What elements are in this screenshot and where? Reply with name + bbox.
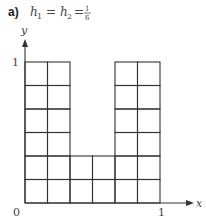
axes: x y 0 1 1 (12, 24, 203, 219)
grid-cell (25, 62, 48, 86)
u-shaped-grid-diagram: a) h 1 = h 2 = 1 6 x y 0 1 1 (0, 0, 206, 220)
grid (25, 62, 160, 203)
grid-cell (115, 133, 138, 157)
grid-cell (138, 133, 161, 157)
panel-title: a) h 1 = h 2 = 1 6 (8, 5, 91, 22)
fraction-denominator: 6 (85, 14, 90, 22)
grid-cell (93, 180, 116, 204)
equals-sign-2: = (74, 5, 84, 19)
grid-cell (25, 180, 48, 204)
grid-cell (115, 62, 138, 86)
grid-cell (115, 180, 138, 204)
grid-cell (48, 62, 71, 86)
grid-cell (48, 133, 71, 157)
grid-cell (138, 62, 161, 86)
grid-cell (93, 156, 116, 180)
fraction-numerator: 1 (85, 5, 89, 13)
grid-cell (48, 156, 71, 180)
grid-cell (25, 109, 48, 133)
grid-cell (25, 133, 48, 157)
grid-cell (115, 86, 138, 110)
x-tick-label: 1 (158, 206, 165, 219)
grid-cell (48, 180, 71, 204)
grid-cell (138, 109, 161, 133)
grid-cell (138, 180, 161, 204)
grid-cell (48, 109, 71, 133)
x-axis-arrow-icon (186, 200, 194, 206)
x-axis-label: x (196, 197, 203, 210)
grid-cell (138, 86, 161, 110)
grid-cell (70, 180, 93, 204)
grid-cell (115, 156, 138, 180)
grid-cell (70, 156, 93, 180)
origin-label: 0 (13, 206, 20, 219)
grid-cell (48, 86, 71, 110)
h1-subscript: 1 (37, 12, 42, 21)
equals-sign-1: = (46, 5, 56, 19)
grid-cell (138, 156, 161, 180)
y-tick-label: 1 (12, 56, 19, 69)
grid-cell (25, 86, 48, 110)
grid-cell (25, 156, 48, 180)
panel-label: a) (8, 5, 19, 19)
y-axis-label: y (20, 24, 28, 37)
grid-cell (115, 109, 138, 133)
h2-subscript: 2 (67, 12, 72, 21)
y-axis-arrow-icon (22, 39, 28, 47)
